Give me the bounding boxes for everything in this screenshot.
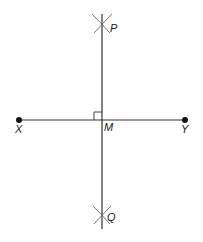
right-angle-marker: [94, 112, 102, 120]
label-x: X: [14, 123, 23, 135]
perpendicular-bisector-diagram: P X M Y Q: [0, 0, 203, 242]
label-y: Y: [181, 123, 189, 135]
label-q: Q: [107, 211, 116, 223]
label-m: M: [104, 121, 114, 133]
label-p: P: [110, 22, 118, 34]
